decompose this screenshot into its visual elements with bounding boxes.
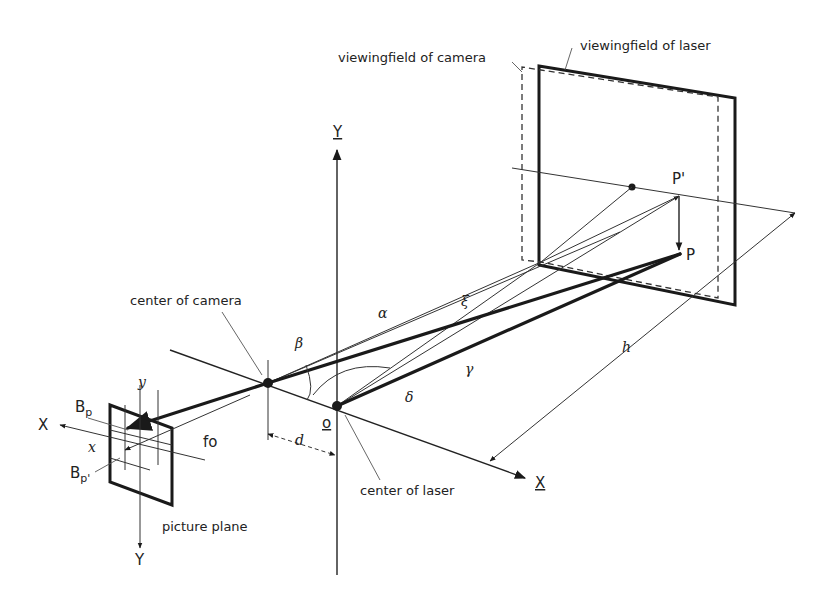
laser-center-dot [332, 401, 342, 411]
label-p: P [686, 246, 695, 264]
camera-center-dot [263, 378, 273, 388]
label-bp-prime: Bp' [70, 464, 90, 485]
label-h: h [622, 339, 631, 355]
h-dimension-line [490, 213, 795, 461]
label-y-small: y [137, 374, 147, 390]
label-y-image: Y [134, 551, 145, 569]
triangulation-diagram: viewingfield of camera viewingfield of l… [0, 0, 831, 608]
label-origin: o [322, 414, 331, 432]
ray-p-to-camera [268, 254, 680, 383]
label-x-image: X [38, 416, 48, 434]
label-d: d [295, 432, 304, 448]
laser-viewingfield-frame [539, 66, 735, 305]
label-gamma: γ [465, 361, 474, 377]
label-x-world: X [535, 474, 545, 492]
label-beta: β [294, 335, 303, 351]
ray-corner-to-p-prime [541, 196, 679, 262]
label-alpha: α [378, 305, 388, 321]
label-y-world: Y [332, 123, 343, 141]
laser-center-leader [345, 415, 380, 480]
camera-field-leader [512, 62, 522, 72]
label-delta: δ [405, 389, 413, 405]
horizon-line [512, 168, 795, 213]
label-bp: Bp [75, 398, 92, 419]
label-focal: fo [203, 433, 217, 451]
label-center-camera: center of camera [130, 293, 242, 308]
label-x-small: x [88, 439, 96, 455]
camera-center-leader [222, 312, 262, 375]
ray-laser-to-corner [337, 262, 541, 406]
laser-field-leader [565, 48, 572, 70]
label-viewingfield-camera: viewingfield of camera [338, 50, 486, 65]
label-viewingfield-laser: viewingfield of laser [580, 38, 711, 53]
picture-plane-frame [110, 405, 172, 505]
ray-camera-to-image [128, 383, 268, 428]
bp-prime-leader [95, 458, 120, 472]
label-p-prime: P' [672, 170, 685, 188]
label-center-laser: center of laser [360, 483, 455, 498]
label-picture-plane: picture plane [162, 519, 248, 534]
ray-laser-to-p-prime [337, 196, 679, 406]
bp-leader [88, 418, 128, 430]
image-x-axis [60, 425, 205, 460]
ray-camera-upper [268, 232, 620, 383]
label-zeta: ξ [461, 293, 470, 309]
